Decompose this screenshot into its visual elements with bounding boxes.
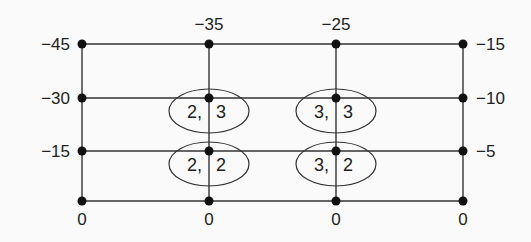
node-dot [78, 94, 87, 103]
payoff-right: 2 [343, 155, 353, 175]
node-dot [332, 197, 341, 206]
right-label: −10 [476, 89, 505, 108]
node-dot [78, 40, 87, 49]
node-dot [78, 147, 87, 156]
node-dot [332, 40, 341, 49]
right-label: −5 [476, 142, 495, 161]
payoff-left: 2, [187, 102, 202, 122]
bottom-label: 0 [204, 210, 213, 229]
node-dot [205, 147, 214, 156]
bottom-label: 0 [458, 210, 467, 229]
grid-lines [82, 44, 463, 201]
payoff-right: 3 [216, 102, 226, 122]
grid-diagram: 2,33,32,23,2 −35−25−45−30−15−15−10−50000 [0, 0, 531, 242]
node-dot [205, 40, 214, 49]
left-label: −30 [41, 89, 70, 108]
node-dot [459, 147, 468, 156]
node-dot [332, 147, 341, 156]
right-label: −15 [476, 35, 505, 54]
payoff-left: 3, [314, 102, 329, 122]
payoff-left: 2, [187, 155, 202, 175]
payoff-right: 3 [343, 102, 353, 122]
node-dot [459, 94, 468, 103]
grid-nodes [78, 40, 468, 206]
bottom-label: 0 [331, 210, 340, 229]
bottom-label: 0 [77, 210, 86, 229]
left-label: −45 [41, 35, 70, 54]
top-label: −35 [195, 15, 224, 34]
node-dot [459, 197, 468, 206]
top-label: −25 [322, 15, 351, 34]
payoff-right: 2 [216, 155, 226, 175]
node-dot [459, 40, 468, 49]
payoff-ellipses: 2,33,32,23,2 [169, 89, 376, 186]
left-label: −15 [41, 142, 70, 161]
node-dot [205, 94, 214, 103]
node-dot [332, 94, 341, 103]
axis-labels: −35−25−45−30−15−15−10−50000 [41, 15, 505, 229]
node-dot [205, 197, 214, 206]
node-dot [78, 197, 87, 206]
payoff-left: 3, [314, 155, 329, 175]
